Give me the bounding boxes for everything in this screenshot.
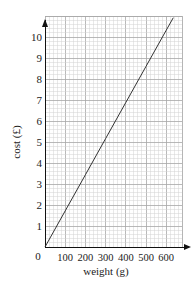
y-tick-label: 10 bbox=[31, 31, 43, 43]
x-tick-labels: 100200300400500600 bbox=[57, 252, 174, 263]
y-tick-label: 1 bbox=[37, 220, 43, 232]
y-tick-label: 4 bbox=[37, 157, 43, 169]
x-tick-label: 600 bbox=[158, 252, 174, 263]
x-tick-label: 200 bbox=[78, 252, 94, 263]
x-tick-label: 100 bbox=[57, 252, 73, 263]
grid bbox=[45, 16, 182, 247]
y-tick-label: 9 bbox=[37, 52, 43, 64]
y-tick-labels: 12345678910 bbox=[31, 31, 43, 232]
y-tick-label: 6 bbox=[37, 115, 43, 127]
x-axis-arrow-icon bbox=[184, 244, 191, 250]
x-tick-label: 300 bbox=[98, 252, 114, 263]
y-tick-label: 5 bbox=[37, 136, 43, 148]
y-tick-label: 7 bbox=[37, 94, 43, 106]
cost-weight-chart: 100200300400500600 12345678910 0 weight … bbox=[0, 0, 195, 298]
y-axis-label: cost (£) bbox=[10, 125, 23, 159]
y-tick-label: 3 bbox=[37, 178, 43, 190]
x-axis-label: weight (g) bbox=[83, 265, 129, 278]
x-tick-label: 400 bbox=[118, 252, 134, 263]
x-tick-label: 500 bbox=[138, 252, 154, 263]
y-tick-label: 2 bbox=[37, 199, 43, 211]
origin-label: 0 bbox=[35, 250, 41, 262]
y-tick-label: 8 bbox=[37, 73, 43, 85]
